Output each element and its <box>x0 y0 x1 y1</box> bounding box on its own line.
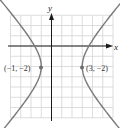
hyperbola-graph: x y (−1, −2) (3, −2) <box>0 0 120 128</box>
y-axis-arrow-icon <box>49 13 54 20</box>
y-axis-label: y <box>47 3 52 13</box>
vertex-label-left: (−1, −2) <box>4 64 31 73</box>
x-axis-arrow-icon <box>106 44 113 49</box>
vertex-label-right: (3, −2) <box>86 64 108 73</box>
vertex-point-left <box>39 66 43 70</box>
vertex-point-right <box>80 66 84 70</box>
x-axis-label: x <box>113 42 118 52</box>
